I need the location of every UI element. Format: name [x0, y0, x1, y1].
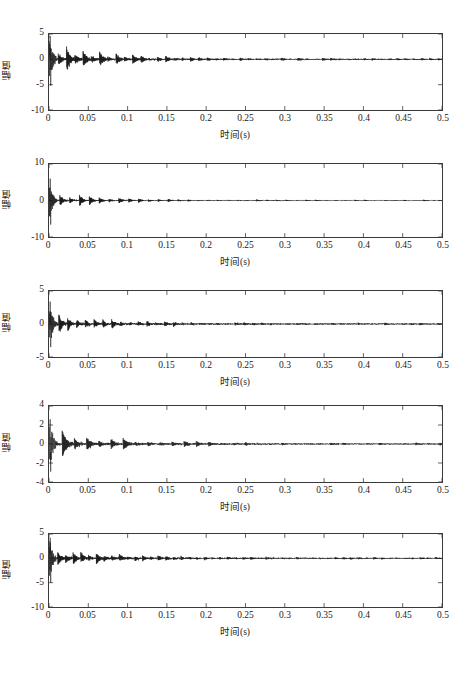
signal-trace-5	[49, 538, 442, 583]
signal-trace-3	[49, 302, 442, 348]
x-tick-label: 0.35	[305, 240, 345, 250]
x-tick-label: 0.45	[384, 485, 424, 495]
x-tick-label: 0.35	[305, 485, 345, 495]
signal-trace-2	[49, 179, 442, 225]
x-tick-label: 0.4	[344, 360, 384, 370]
x-tick-label: 0.4	[344, 113, 384, 123]
x-tick-label: 0.3	[265, 240, 305, 250]
x-tick-label: 0.05	[68, 610, 108, 620]
x-tick-label: 0.15	[147, 240, 187, 250]
x-tick-label: 0.1	[107, 113, 147, 123]
x-tick-label: 0.15	[147, 485, 187, 495]
y-tick-label: -2	[14, 458, 44, 468]
y-axis-label: 幅值	[0, 59, 14, 80]
y-tick-label: 10	[14, 157, 44, 167]
plot-area-1	[48, 33, 443, 111]
x-tick-label: 0.15	[147, 113, 187, 123]
x-tick-label: 0.1	[107, 240, 147, 250]
x-tick-label: 0.45	[384, 240, 424, 250]
y-axis-label: 幅值	[0, 311, 14, 332]
x-tick-label: 0.2	[186, 360, 226, 370]
x-tick-label: 0.45	[384, 360, 424, 370]
x-tick-label: 0.05	[68, 113, 108, 123]
x-axis-label: 时间(s)	[0, 374, 470, 388]
x-tick-label: 0.35	[305, 360, 345, 370]
x-axis-label: 时间(s)	[0, 624, 470, 638]
x-tick-label: 0	[28, 360, 68, 370]
x-tick-label: 0.15	[147, 610, 187, 620]
plot-area-4	[48, 405, 443, 483]
y-tick-label: 0	[14, 438, 44, 448]
x-tick-label: 0.45	[384, 610, 424, 620]
y-tick-label: 5	[14, 284, 44, 294]
x-tick-label: 0.3	[265, 485, 305, 495]
x-tick-label: 0.05	[68, 240, 108, 250]
x-tick-label: 0.4	[344, 240, 384, 250]
x-tick-label: 0.2	[186, 240, 226, 250]
x-tick-label: 0.1	[107, 610, 147, 620]
x-tick-label: 0.4	[344, 610, 384, 620]
x-tick-label: 0.2	[186, 610, 226, 620]
x-tick-label: 0.25	[226, 113, 266, 123]
x-tick-label: 0	[28, 240, 68, 250]
x-tick-label: 0.1	[107, 360, 147, 370]
y-tick-label: 4	[14, 399, 44, 409]
y-tick-label: 0	[14, 195, 44, 205]
x-tick-label: 0.05	[68, 360, 108, 370]
y-axis-label: 幅值	[0, 558, 14, 579]
x-tick-label: 0.25	[226, 610, 266, 620]
x-tick-label: 0.25	[226, 485, 266, 495]
x-tick-label: 0.4	[344, 485, 384, 495]
x-tick-label: 0.25	[226, 240, 266, 250]
x-tick-label: 0.2	[186, 113, 226, 123]
x-tick-label: 0.5	[423, 360, 463, 370]
x-tick-label: 0.2	[186, 485, 226, 495]
plot-area-2	[48, 163, 443, 238]
y-tick-label: 2	[14, 419, 44, 429]
x-tick-label: 0.25	[226, 360, 266, 370]
x-axis-label: 时间(s)	[0, 127, 470, 141]
y-axis-label: 幅值	[0, 431, 14, 452]
y-tick-label: 5	[14, 527, 44, 537]
x-tick-label: 0.15	[147, 360, 187, 370]
x-tick-label: 0.3	[265, 360, 305, 370]
x-tick-label: 0.3	[265, 113, 305, 123]
x-axis-label: 时间(s)	[0, 254, 470, 268]
y-tick-label: -5	[14, 79, 44, 89]
x-tick-label: 0.5	[423, 485, 463, 495]
signal-trace-4	[49, 419, 442, 471]
plot-area-5	[48, 533, 443, 608]
x-tick-label: 0	[28, 610, 68, 620]
x-tick-label: 0	[28, 113, 68, 123]
y-tick-label: 5	[14, 27, 44, 37]
x-tick-label: 0.45	[384, 113, 424, 123]
x-tick-label: 0.1	[107, 485, 147, 495]
y-axis-label: 幅值	[0, 188, 14, 209]
x-tick-label: 0.35	[305, 610, 345, 620]
x-tick-label: 0.05	[68, 485, 108, 495]
y-tick-label: 0	[14, 318, 44, 328]
x-axis-label: 时间(s)	[0, 499, 470, 513]
plot-area-3	[48, 290, 443, 358]
x-tick-label: 0.3	[265, 610, 305, 620]
x-tick-label: 0.5	[423, 610, 463, 620]
signal-trace-1	[49, 36, 442, 86]
y-tick-label: 0	[14, 53, 44, 63]
x-tick-label: 0	[28, 485, 68, 495]
y-tick-label: -5	[14, 577, 44, 587]
x-tick-label: 0.5	[423, 240, 463, 250]
x-tick-label: 0.5	[423, 113, 463, 123]
y-tick-label: 0	[14, 552, 44, 562]
signal-figure: 50-5-1000.050.10.150.20.250.30.350.40.45…	[0, 0, 470, 677]
x-tick-label: 0.35	[305, 113, 345, 123]
